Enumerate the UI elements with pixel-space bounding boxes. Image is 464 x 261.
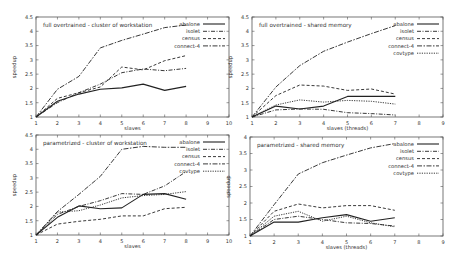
x-tick-label: 6: [370, 120, 373, 126]
y-tick-label: 4: [30, 146, 33, 152]
plot-frame: [36, 135, 229, 235]
legend-label: connect-4: [388, 43, 415, 49]
x-tick-label: 3: [298, 120, 301, 126]
y-tick-label: 3.5: [239, 150, 247, 156]
x-tick-label: 2: [56, 120, 59, 126]
y-tick-label: 4: [244, 134, 247, 140]
legend-label: isolet: [186, 146, 200, 152]
y-tick-label: 3: [244, 167, 247, 173]
series-line-abalone: [250, 215, 395, 236]
x-tick-label: 4: [322, 120, 325, 126]
legend-label: abalone: [393, 21, 414, 27]
series-line-covtype: [36, 192, 186, 235]
chart-panel-3: 1234567891011.522.533.544.5slavesspeedup…: [11, 132, 232, 249]
x-axis-label: slaves: [124, 125, 141, 131]
chart-title: full overtrained - cluster of workstatio…: [43, 22, 153, 28]
chart-title: full overtrained - shared memory: [259, 22, 352, 29]
series-line-connect-4: [252, 26, 395, 117]
speedup-charts-figure: 1234567891011.522.533.544.5slavesspeedup…: [0, 0, 464, 261]
x-tick-label: 10: [226, 120, 232, 126]
y-axis-label: speedup: [11, 55, 18, 78]
legend-label: covtype: [179, 168, 200, 175]
y-tick-label: 4: [30, 28, 33, 34]
series-line-isolet: [250, 216, 395, 236]
series-line-isolet: [36, 172, 186, 235]
series-line-census: [252, 85, 395, 117]
y-tick-label: 1: [30, 114, 33, 120]
y-tick-label: 2.5: [239, 183, 247, 189]
y-tick-label: 3.5: [25, 160, 33, 166]
x-tick-label: 9: [441, 239, 444, 245]
x-tick-label: 6: [369, 239, 372, 245]
y-tick-label: 1: [30, 232, 33, 238]
x-tick-label: 5: [120, 120, 123, 126]
series-line-covtype: [252, 100, 395, 117]
y-tick-label: 3: [30, 175, 33, 181]
chart-panel-2: 12345678911.522.533.544.5slaves (threads…: [227, 14, 445, 131]
y-tick-label: 2: [30, 203, 33, 209]
y-tick-label: 1.5: [239, 216, 247, 222]
chart-panel-4: 12345678911.522.533.54slaves (threads)sp…: [225, 134, 445, 250]
series-line-census: [36, 56, 186, 117]
legend-label: census: [182, 35, 200, 41]
y-axis-label: speedup: [11, 173, 18, 196]
y-tick-label: 3.5: [25, 42, 33, 48]
y-tick-label: 1: [246, 114, 249, 120]
legend-label: isolet: [400, 148, 414, 154]
series-line-connect-4: [36, 146, 186, 235]
y-tick-label: 1.5: [25, 218, 33, 224]
x-tick-label: 8: [417, 239, 420, 245]
x-tick-label: 8: [418, 120, 421, 126]
x-tick-label: 2: [56, 238, 59, 244]
plot-frame: [252, 17, 443, 117]
y-tick-label: 2.5: [25, 71, 33, 77]
x-tick-label: 1: [34, 120, 37, 126]
y-tick-label: 2.5: [241, 71, 249, 77]
series-line-census: [250, 204, 395, 236]
y-tick-label: 1: [244, 233, 247, 239]
legend-label: connect-4: [174, 161, 201, 167]
x-tick-label: 7: [163, 238, 166, 244]
legend-label: census: [182, 153, 200, 159]
x-tick-label: 7: [163, 120, 166, 126]
legend-label: isolet: [186, 28, 200, 34]
y-tick-label: 1.5: [25, 100, 33, 106]
x-tick-label: 9: [206, 238, 209, 244]
chart-panel-1: 1234567891011.522.533.544.5slavesspeedup…: [11, 14, 232, 131]
legend-label: covtype: [393, 50, 414, 57]
series-line-isolet: [36, 68, 186, 117]
y-tick-label: 4: [246, 28, 249, 34]
chart-title: parametrized - shared memory: [257, 142, 345, 149]
x-tick-label: 2: [274, 120, 277, 126]
y-tick-label: 3: [246, 57, 249, 63]
x-tick-label: 5: [120, 238, 123, 244]
x-tick-label: 8: [185, 120, 188, 126]
x-axis-label: slaves: [124, 243, 141, 249]
series-line-census: [36, 207, 186, 235]
x-tick-label: 6: [142, 120, 145, 126]
x-tick-label: 3: [77, 120, 80, 126]
x-axis-label: slaves (threads): [327, 125, 369, 131]
y-tick-label: 2: [30, 85, 33, 91]
x-axis-label: slaves (threads): [326, 244, 368, 250]
x-tick-label: 1: [248, 239, 251, 245]
legend-label: connect-4: [388, 163, 415, 169]
y-tick-label: 4.5: [25, 14, 33, 20]
chart-title: parametrized - cluster of workstation: [43, 140, 147, 147]
y-tick-label: 2.5: [25, 189, 33, 195]
plot-frame: [36, 17, 229, 117]
plot-frame: [250, 137, 443, 236]
y-tick-label: 4.5: [241, 14, 249, 20]
x-tick-label: 7: [394, 120, 397, 126]
legend-label: abalone: [179, 139, 200, 145]
legend-label: covtype: [393, 170, 414, 177]
y-tick-label: 2: [246, 85, 249, 91]
x-tick-label: 1: [34, 238, 37, 244]
x-tick-label: 3: [297, 239, 300, 245]
y-axis-label: speedup: [227, 55, 234, 78]
x-tick-label: 2: [273, 239, 276, 245]
x-tick-label: 6: [142, 238, 145, 244]
y-axis-label: speedup: [225, 175, 232, 198]
y-tick-label: 1.5: [241, 100, 249, 106]
y-tick-label: 3: [30, 57, 33, 63]
